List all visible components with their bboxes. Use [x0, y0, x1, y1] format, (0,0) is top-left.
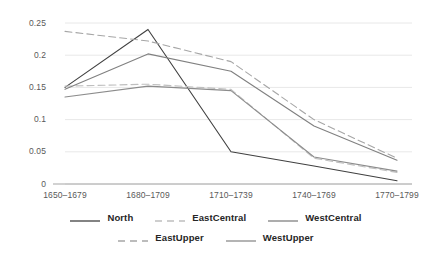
legend-label: EastUpper: [155, 232, 203, 243]
legend-swatch-icon: [70, 212, 100, 222]
legend-swatch-icon: [268, 212, 298, 222]
series-line-eastcentral: [65, 84, 397, 172]
legend-item-north[interactable]: North: [70, 212, 133, 223]
line-chart: 0.250.20.150.10.050 1650–16791680–170917…: [0, 0, 432, 254]
legend-swatch-icon: [155, 212, 185, 222]
x-tick-label: 1770–1799: [357, 190, 432, 200]
series-line-north: [65, 29, 397, 180]
legend-label: WestCentral: [305, 212, 361, 223]
legend-row-2: EastUpperWestUpper: [0, 227, 432, 247]
chart-legend: NorthEastCentralWestCentral EastUpperWes…: [0, 207, 432, 247]
y-tick-label: 0: [8, 179, 46, 189]
legend-label: WestUpper: [263, 232, 314, 243]
legend-row-1: NorthEastCentralWestCentral: [0, 207, 432, 227]
legend-label: EastCentral: [192, 212, 246, 223]
legend-swatch-icon: [226, 232, 256, 242]
series-lines: [65, 29, 397, 180]
legend-item-eastupper[interactable]: EastUpper: [118, 232, 203, 243]
x-tick-label: 1680–1709: [108, 190, 188, 200]
gridlines: [65, 23, 412, 184]
x-tick-label: 1740–1769: [274, 190, 354, 200]
y-tick-label: 0.15: [8, 82, 46, 92]
x-tick-label: 1650–1679: [25, 190, 105, 200]
series-line-westupper: [65, 86, 397, 171]
y-tick-label: 0.2: [8, 50, 46, 60]
y-tick-label: 0.1: [8, 114, 46, 124]
legend-item-westupper[interactable]: WestUpper: [226, 232, 314, 243]
legend-item-westcentral[interactable]: WestCentral: [268, 212, 361, 223]
series-line-westcentral: [65, 54, 397, 160]
legend-swatch-icon: [118, 232, 148, 242]
x-tick-label: 1710–1739: [191, 190, 271, 200]
legend-item-eastcentral[interactable]: EastCentral: [155, 212, 246, 223]
y-tick-label: 0.25: [8, 18, 46, 28]
legend-label: North: [107, 212, 133, 223]
y-tick-label: 0.05: [8, 146, 46, 156]
